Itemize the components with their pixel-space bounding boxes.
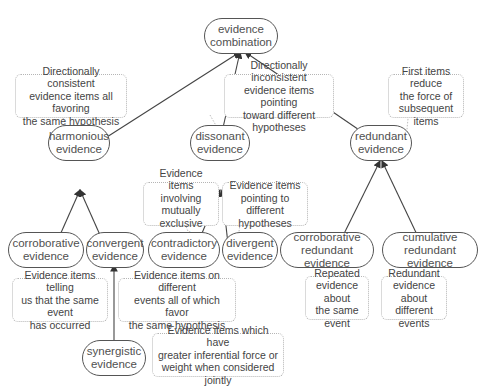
note-cumulative-redundant: Redundant evidence about different event… [381,276,447,320]
node-label: evidence combination [210,23,272,49]
node-synergistic: synergistic evidence [82,340,146,376]
note-harmonious: Directionally consistent evidence items … [15,74,127,118]
note-corroborative-redundant: Repeated evidence about the same event [305,276,369,320]
node-dissonant: dissonant evidence [190,125,250,161]
node-contradictory: contradictory evidence [148,232,220,268]
node-evidence-combination: evidence combination [204,18,278,54]
note-divergent: Evidence items pointing to different hyp… [222,182,308,226]
node-corroborative: corroborative evidence [8,232,84,268]
node-corroborative-redundant: corroborative redundant evidence [280,232,374,268]
node-redundant: redundant evidence [350,125,412,161]
node-harmonious: harmonious evidence [48,125,110,161]
note-synergistic: Evidence items which have greater infere… [152,333,284,377]
note-redundant: First items reduce the force of subseque… [388,74,464,118]
note-convergent: Evidence items on different events all o… [118,278,236,322]
node-convergent: convergent evidence [86,232,144,268]
note-dissonant: Directionally inconsistent evidence item… [224,74,334,118]
note-corroborative: Evidence items telling us that the same … [12,278,108,322]
note-contradictory: Evidence items involving mutually exclus… [143,182,219,226]
node-cumulative-redundant: cumulative redundant evidence [382,232,478,268]
node-divergent: divergent evidence [222,232,278,268]
